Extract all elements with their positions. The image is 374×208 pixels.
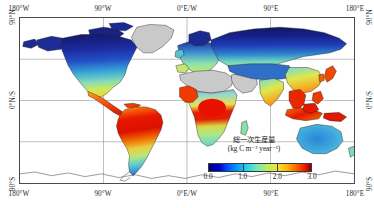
region-philippines: [312, 91, 323, 104]
region-madagascar: [241, 121, 248, 136]
x-axis-bottom-label-2: 0°E/W: [177, 190, 197, 198]
gpp-world-map-figure: 180°W 90°W 0°E/W 90°E 180°E 180°W 90°W 0…: [0, 0, 374, 208]
region-eurasia: [211, 27, 346, 69]
y-axis-left-label-1: 0°N/S: [9, 91, 17, 109]
region-greenland: [131, 24, 174, 52]
region-north-america: [61, 35, 137, 97]
y-axis-left-label-2: 90°S: [9, 177, 17, 191]
region-new-guinea: [323, 112, 346, 121]
y-axis-right-label-2: 90°S: [366, 177, 374, 191]
region-australia: [296, 124, 342, 153]
x-axis-bottom-label-4: 180°E: [346, 190, 365, 198]
y-axis-right-label-1: 0°N/S: [366, 91, 374, 109]
map-plot-area: [19, 17, 355, 184]
region-japan: [324, 66, 336, 82]
x-axis-top-label-3: 90°E: [264, 5, 279, 13]
region-india: [259, 79, 283, 107]
region-new-zealand: [348, 146, 354, 157]
region-korea: [319, 74, 325, 82]
x-axis-top-label-4: 180°E: [346, 5, 365, 13]
world-gpp-choropleth: [20, 18, 354, 183]
region-central-america: [88, 91, 125, 116]
region-arctic-islands-2: [109, 23, 133, 31]
x-axis-bottom-label-1: 90°W: [94, 190, 111, 198]
y-axis-right-label-0: 90°N: [366, 9, 374, 25]
region-south-america: [116, 107, 162, 176]
y-axis-left-label-0: 90°N: [9, 9, 17, 25]
region-east-asia: [285, 68, 322, 94]
x-axis-top-label-1: 90°W: [94, 5, 111, 13]
x-axis-top-label-2: 0°E/W: [177, 5, 197, 13]
x-axis-bottom-label-3: 90°E: [264, 190, 279, 198]
region-congo-hotspot: [198, 99, 226, 117]
region-southeast-asia: [289, 90, 306, 110]
region-alaska-west: [23, 39, 39, 48]
